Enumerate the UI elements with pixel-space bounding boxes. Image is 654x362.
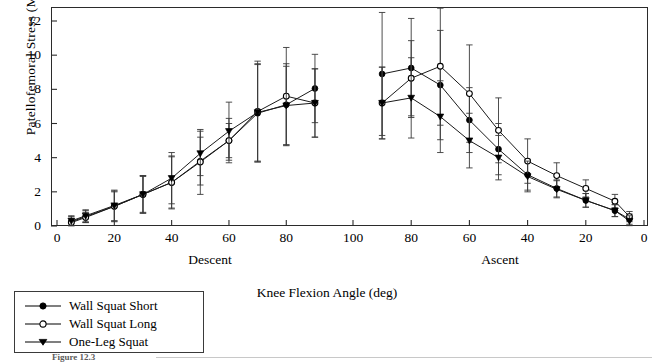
y-tick-2: 2 <box>7 185 41 199</box>
phase-label-descent: Descent <box>150 252 270 268</box>
x-axis-label: Knee Flexion Angle (deg) <box>227 285 427 301</box>
x-tick-descent-80: 80 <box>266 231 306 245</box>
x-tick-ascent-80: 80 <box>391 231 431 245</box>
plot-frame <box>51 7 648 226</box>
x-tick-ascent-0: 0 <box>624 231 654 245</box>
y-tick-12: 12 <box>7 14 41 28</box>
y-tick-4: 4 <box>7 151 41 165</box>
x-tick-ascent-40: 40 <box>508 231 548 245</box>
legend-symbol-open-circle <box>22 316 64 332</box>
x-tick-descent-60: 60 <box>209 231 249 245</box>
legend-label: One-Leg Squat <box>64 334 148 350</box>
legend-label: Wall Squat Long <box>64 316 157 332</box>
x-tick-descent-0: 0 <box>37 231 77 245</box>
x-tick-ascent-20: 20 <box>566 231 606 245</box>
legend-item: Wall Squat Short <box>22 297 196 315</box>
x-tick-descent-40: 40 <box>152 231 192 245</box>
phase-label-ascent: Ascent <box>440 252 560 268</box>
y-tick-10: 10 <box>7 48 41 62</box>
x-tick-ascent-100: 100 <box>333 231 373 245</box>
legend-symbol-filled-triangle <box>22 334 64 350</box>
caption-rule <box>156 357 652 358</box>
x-tick-descent-20: 20 <box>94 231 134 245</box>
y-tick-6: 6 <box>7 117 41 131</box>
legend-item: Wall Squat Long <box>22 315 196 333</box>
legend-symbol-filled-circle <box>22 298 64 314</box>
legend-box: Wall Squat Short Wall Squat Long One-Leg… <box>14 291 204 353</box>
y-tick-8: 8 <box>7 82 41 96</box>
x-tick-ascent-60: 60 <box>449 231 489 245</box>
legend-item: One-Leg Squat <box>22 333 196 351</box>
y-tick-0: 0 <box>7 219 41 233</box>
figure-caption: Figure 12.3 <box>52 352 95 362</box>
legend-label: Wall Squat Short <box>64 298 158 314</box>
